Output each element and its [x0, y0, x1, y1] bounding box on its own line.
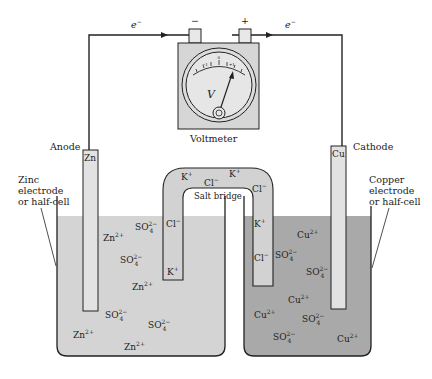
- voltmeter: − + −1 0 +1 V: [178, 15, 259, 129]
- arrow-right-icon: [161, 32, 168, 38]
- meter-v-symbol: V: [207, 88, 216, 101]
- svg-text:Zinc: Zinc: [18, 174, 39, 185]
- zinc-electrode: [83, 150, 98, 311]
- cathode-label: Cathode: [353, 141, 394, 152]
- positive-terminal: [239, 29, 251, 43]
- negative-terminal: [189, 29, 201, 43]
- minus-sign: −: [191, 15, 199, 26]
- arrow-right-icon: [266, 32, 273, 38]
- anode-label: Anode: [49, 141, 81, 152]
- svg-text:electrode: electrode: [18, 185, 64, 196]
- plus-sign: +: [241, 15, 249, 26]
- svg-text:Copper: Copper: [369, 174, 405, 185]
- electron-label-right: e−: [285, 18, 296, 30]
- galvanic-cell-diagram: e− e− − + −1 0 +1 V Voltmeter: [0, 0, 432, 379]
- electron-label-left: e−: [131, 18, 142, 30]
- svg-text:or half-cell: or half-cell: [369, 196, 421, 207]
- zn-electrode-label: Zn: [84, 153, 96, 163]
- voltmeter-label: Voltmeter: [189, 133, 238, 144]
- salt-bridge-label: Salt bridge: [194, 191, 242, 201]
- svg-text:or half-cell: or half-cell: [18, 196, 70, 207]
- svg-text:electrode: electrode: [369, 185, 415, 196]
- copper-half-cell-note: Copper electrode or half-cell: [369, 174, 421, 268]
- meter-minus-label: −1: [202, 62, 208, 67]
- copper-electrode: [331, 146, 346, 309]
- meter-plus-label: +1: [229, 62, 235, 67]
- cu-electrode-label: Cu: [332, 149, 345, 159]
